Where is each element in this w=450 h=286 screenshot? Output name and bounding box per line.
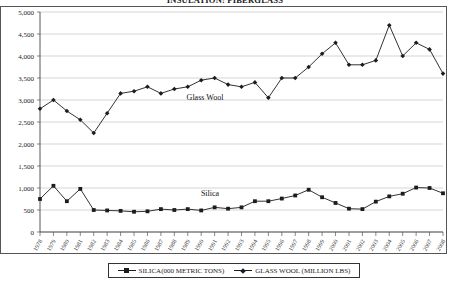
data-point-marker — [38, 107, 43, 112]
data-point-marker — [159, 207, 163, 211]
y-tick-label: 1,500 — [18, 163, 34, 171]
data-point-marker — [52, 184, 56, 188]
annotation-glass-wool: Glass Wool — [187, 93, 225, 102]
data-point-marker — [65, 199, 69, 203]
data-point-marker — [185, 85, 190, 90]
x-axis-tick-labels: 1978197919801981198219831984198519861987… — [32, 239, 446, 252]
x-tick-label: 1982 — [86, 239, 97, 252]
legend-item-glass-wool: GLASS WOOL (MILLION LBS) — [234, 267, 350, 275]
y-tick-label: 4,000 — [18, 53, 34, 61]
legend-label-silica: SILICA(000 METRIC TONS) — [139, 267, 225, 275]
data-point-marker — [374, 58, 379, 63]
data-point-marker — [414, 186, 418, 190]
x-tick-label: 1992 — [220, 239, 231, 252]
data-point-marker — [159, 91, 164, 96]
x-tick-label: 1991 — [207, 239, 218, 252]
data-point-marker — [239, 85, 244, 90]
data-point-marker — [387, 23, 392, 28]
x-tick-label: 1980 — [59, 239, 70, 252]
legend-swatch-square-icon — [118, 267, 136, 274]
x-tick-label: 1988 — [167, 239, 178, 252]
data-point-marker — [172, 208, 176, 212]
y-tick-label: 4,500 — [18, 31, 34, 39]
legend-item-silica: SILICA(000 METRIC TONS) — [118, 267, 225, 275]
data-point-marker — [240, 205, 244, 209]
data-point-marker — [38, 197, 42, 201]
annotation-silica: Silica — [201, 189, 220, 198]
x-tick-label: 2006 — [408, 239, 419, 252]
data-point-marker — [105, 209, 109, 213]
data-point-marker — [293, 194, 297, 198]
chart-plot-area: 05001,0001,5002,0002,5003,0003,5004,0004… — [0, 0, 450, 286]
x-tick-label: 1979 — [46, 239, 57, 252]
y-tick-label: 0 — [31, 229, 35, 237]
legend-swatch-diamond-icon — [234, 267, 252, 274]
data-point-marker — [145, 85, 150, 90]
data-point-marker — [119, 209, 123, 213]
x-tick-label: 1998 — [301, 239, 312, 252]
data-series — [38, 23, 446, 214]
chart-legend: SILICA(000 METRIC TONS) GLASS WOOL (MILL… — [108, 263, 360, 278]
x-tick-label: 1983 — [99, 239, 110, 252]
data-point-marker — [212, 76, 217, 81]
series-annotations: Glass WoolSilica — [187, 93, 225, 198]
series-line-glass-wool — [40, 25, 443, 133]
y-tick-label: 5,000 — [18, 9, 34, 17]
fiberglass-insulation-chart: INSULATION: FIBERGLASS 05001,0001,5002,0… — [0, 0, 450, 286]
data-point-marker — [146, 209, 150, 213]
x-tick-label: 1994 — [247, 239, 258, 252]
x-tick-label: 1999 — [314, 239, 325, 252]
y-tick-label: 3,000 — [18, 97, 34, 105]
data-point-marker — [199, 78, 204, 83]
axes — [40, 12, 443, 236]
x-tick-label: 1990 — [193, 239, 204, 252]
y-tick-label: 3,500 — [18, 75, 34, 83]
data-point-marker — [361, 207, 365, 211]
data-point-marker — [172, 87, 177, 92]
x-tick-label: 2000 — [328, 239, 339, 252]
data-point-marker — [186, 207, 190, 211]
data-point-marker — [253, 199, 257, 203]
data-point-marker — [307, 188, 311, 192]
y-tick-label: 500 — [24, 207, 35, 215]
x-tick-label: 2004 — [381, 239, 392, 252]
x-tick-label: 2001 — [341, 239, 352, 252]
data-point-marker — [374, 200, 378, 204]
x-tick-label: 1989 — [180, 239, 191, 252]
x-tick-label: 2005 — [395, 239, 406, 252]
data-point-marker — [132, 210, 136, 214]
data-point-marker — [347, 207, 351, 211]
data-point-marker — [213, 205, 217, 209]
x-tick-label: 1993 — [234, 239, 245, 252]
y-tick-label: 2,500 — [18, 119, 34, 127]
x-tick-label: 2003 — [368, 239, 379, 252]
x-tick-label: 1981 — [72, 239, 83, 252]
x-tick-label: 1996 — [274, 239, 285, 252]
data-point-marker — [428, 186, 432, 190]
data-point-marker — [226, 207, 230, 211]
x-tick-label: 1986 — [140, 239, 151, 252]
data-point-marker — [266, 199, 270, 203]
x-tick-label: 1987 — [153, 239, 164, 252]
y-tick-label: 2,000 — [18, 141, 34, 149]
data-point-marker — [441, 71, 446, 76]
x-tick-label: 2007 — [422, 239, 433, 252]
data-point-marker — [401, 192, 405, 196]
x-tick-label: 1995 — [261, 239, 272, 252]
data-point-marker — [226, 82, 231, 87]
data-point-marker — [320, 195, 324, 199]
data-point-marker — [347, 63, 352, 68]
x-tick-label: 2002 — [355, 239, 366, 252]
x-tick-label: 1984 — [113, 239, 124, 252]
data-point-marker — [199, 209, 203, 213]
data-point-marker — [334, 201, 338, 205]
data-point-marker — [92, 208, 96, 212]
x-tick-label: 2008 — [435, 239, 446, 252]
data-point-marker — [132, 89, 137, 94]
x-tick-label: 1985 — [126, 239, 137, 252]
data-point-marker — [280, 197, 284, 201]
y-tick-label: 1,000 — [18, 185, 34, 193]
data-point-marker — [441, 191, 445, 195]
data-point-marker — [78, 187, 82, 191]
x-tick-label: 1978 — [32, 239, 43, 252]
